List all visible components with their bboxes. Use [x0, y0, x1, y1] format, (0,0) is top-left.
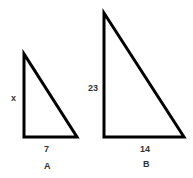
triangle-b-side-label: 23 — [88, 84, 98, 93]
triangle-a — [24, 54, 77, 137]
triangle-b-caption: B — [143, 160, 150, 169]
triangle-a-side-label: x — [11, 94, 16, 103]
triangle-a-base-label: 7 — [44, 145, 49, 154]
triangle-b-base-label: 14 — [140, 145, 150, 154]
triangle-b — [104, 13, 184, 137]
triangle-a-caption: A — [44, 162, 51, 171]
